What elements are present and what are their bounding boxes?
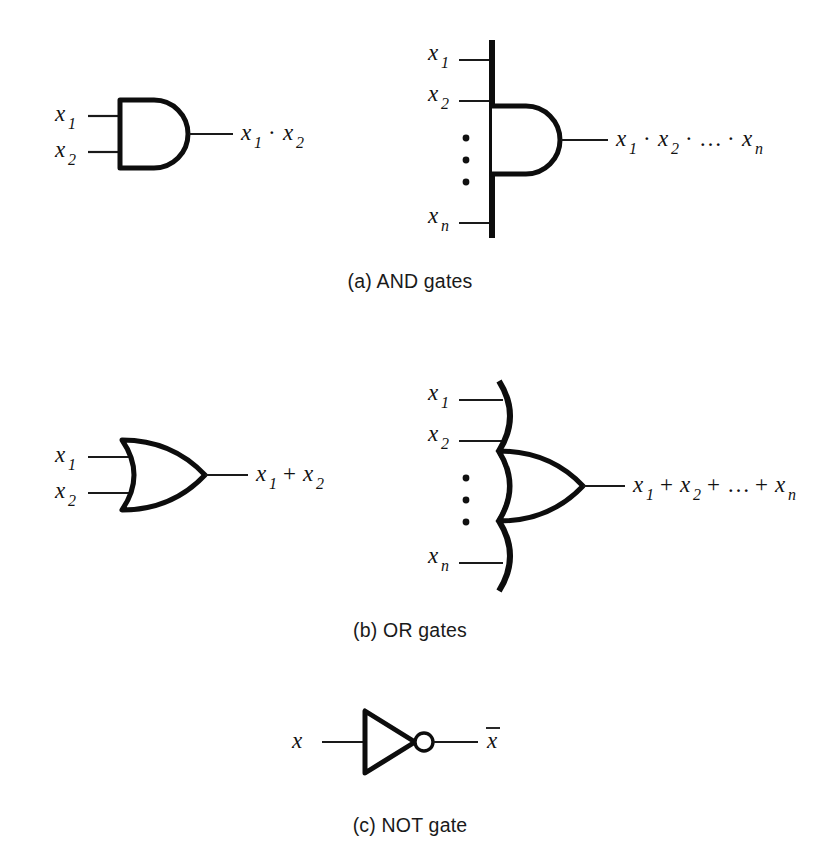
or2-out-x1-base: x (255, 461, 267, 486)
andn-input-label-1-sub: 1 (441, 54, 449, 71)
andn-input-label-2-base: x (427, 81, 439, 106)
orn-out-operator-2: + (707, 472, 720, 497)
or2-out-x2-sub: 2 (316, 475, 324, 492)
orn-input-label-n-base: x (427, 543, 439, 568)
caption-and-gates: (a) AND gates (347, 270, 472, 292)
or2-input-label-2-sub: 2 (68, 492, 76, 509)
or2-out-operator: + (283, 461, 296, 486)
orn-input-label-2-base: x (427, 421, 439, 446)
orn-input-label-n-sub: n (441, 557, 449, 574)
andn-out-xn-base: x (741, 126, 753, 151)
caption-not-gate: (c) NOT gate (353, 814, 468, 836)
andn-gate-body (492, 106, 560, 174)
orn-out-xn-base: x (774, 472, 786, 497)
and2-input-label-2-base: x (54, 137, 66, 162)
andn-ellipsis-dot-1 (463, 135, 470, 142)
andn-out-operator-1: · (643, 126, 651, 151)
and2-out-operator: · (268, 120, 276, 145)
orn-ellipsis-dot-1 (463, 475, 470, 482)
not-input-label: x (291, 728, 303, 753)
and2-input-label-1-base: x (54, 101, 66, 126)
or2-input-label-1-sub: 1 (68, 456, 76, 473)
andn-out-x1-sub: 1 (629, 140, 637, 157)
and2-out-x1-sub: 1 (254, 134, 262, 151)
andn-input-label-n-base: x (427, 203, 439, 228)
andn-ellipsis-dot-2 (463, 157, 470, 164)
orn-out-xn-sub: n (788, 486, 796, 503)
andn-ellipsis-dot-3 (463, 179, 470, 186)
or2-input-label-2-base: x (54, 478, 66, 503)
or2-out-x1-sub: 1 (269, 475, 277, 492)
and2-input-label-2-sub: 2 (68, 151, 76, 168)
andn-out-operator-3: · (727, 126, 735, 151)
andn-out-x2-base: x (657, 126, 669, 151)
and2-input-label-1-sub: 1 (68, 115, 76, 132)
andn-out-x2-sub: 2 (671, 140, 679, 157)
caption-or-gates: (b) OR gates (353, 619, 467, 641)
orn-out-x1-sub: 1 (646, 486, 654, 503)
and2-out-x2-sub: 2 (296, 134, 304, 151)
andn-out-xn-sub: n (755, 140, 763, 157)
and2-gate-body (120, 100, 188, 168)
orn-input-label-1-sub: 1 (441, 394, 449, 411)
not-inversion-bubble-icon (415, 733, 433, 751)
orn-out-ellipsis: … (727, 472, 750, 497)
orn-input-label-1-base: x (427, 380, 439, 405)
orn-out-operator-3: + (755, 472, 768, 497)
orn-out-x2-sub: 2 (693, 486, 701, 503)
orn-ellipsis-dot-2 (463, 497, 470, 504)
orn-input-label-2-sub: 2 (441, 435, 449, 452)
figure-canvas: x 1 x 2 x 1 · x 2 (0, 0, 820, 857)
and2-out-x1-base: x (240, 120, 252, 145)
andn-out-operator-2: · (685, 126, 693, 151)
orn-ellipsis-dot-3 (463, 519, 470, 526)
andn-out-x1-base: x (615, 126, 627, 151)
orn-out-x2-base: x (679, 472, 691, 497)
andn-out-ellipsis: … (699, 126, 722, 151)
andn-input-label-2-sub: 2 (441, 95, 449, 112)
and2-out-x2-base: x (282, 120, 294, 145)
or2-out-x2-base: x (302, 461, 314, 486)
andn-input-label-1-base: x (427, 40, 439, 65)
not-output-label-base: x (486, 728, 498, 753)
andn-input-label-n-sub: n (441, 217, 449, 234)
orn-out-x1-base: x (632, 472, 644, 497)
or2-input-label-1-base: x (54, 442, 66, 467)
orn-out-operator-1: + (660, 472, 673, 497)
logic-gates-figure: x 1 x 2 x 1 · x 2 (0, 0, 820, 857)
